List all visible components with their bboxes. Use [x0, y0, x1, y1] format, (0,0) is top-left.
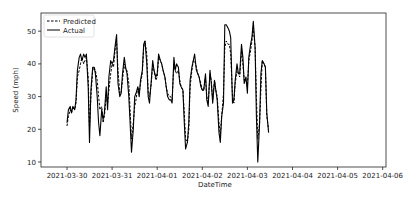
- y-tick-label: 20: [27, 126, 36, 134]
- x-axis-label: DateTime: [198, 181, 232, 189]
- x-tick-label: 2021-03-30: [47, 172, 88, 180]
- x-tick-label: 2021-04-02: [182, 172, 223, 180]
- y-axis-label: Speed (mph): [12, 67, 20, 113]
- legend: Predicted Actual: [44, 15, 96, 37]
- x-tick-label: 2021-04-06: [362, 172, 403, 180]
- x-tick-label: 2021-04-04: [272, 172, 313, 180]
- legend-label-actual: Actual: [63, 27, 85, 35]
- speed-line-chart: 1020304050 2021-03-302021-03-312021-04-0…: [0, 0, 417, 197]
- legend-label-predicted: Predicted: [63, 18, 96, 26]
- x-tick-label: 2021-04-03: [227, 172, 268, 180]
- x-tick-label: 2021-04-05: [317, 172, 358, 180]
- y-tick-label: 30: [27, 93, 36, 101]
- y-tick-label: 10: [27, 159, 36, 167]
- y-tick-label: 40: [27, 60, 36, 68]
- x-tick-label: 2021-03-31: [92, 172, 133, 180]
- x-tick-label: 2021-04-01: [137, 172, 178, 180]
- y-tick-label: 50: [27, 28, 36, 36]
